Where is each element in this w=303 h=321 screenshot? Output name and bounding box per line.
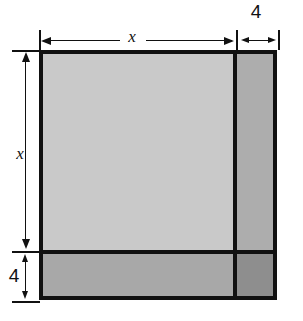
arrowhead-left-4-top (22, 254, 28, 262)
arrowhead-top-x-left (41, 37, 51, 45)
witness-tick-top-middle (236, 30, 238, 50)
dimension-label-left-4: 4 (3, 266, 25, 285)
arrowhead-top-x-right (224, 37, 234, 45)
dimension-label-top-x: x (122, 28, 142, 45)
dimension-label-left-x: x (10, 145, 30, 162)
shape-outer-border (39, 50, 277, 300)
witness-tick-left-bottom (12, 301, 40, 303)
witness-tick-top-right (278, 30, 280, 50)
internal-horizontal-divider (39, 250, 277, 254)
arrowhead-left-x-top (22, 52, 30, 62)
geometry-diagram: x 4 x 4 (0, 0, 303, 321)
arrowhead-left-x-bottom (22, 239, 30, 249)
internal-vertical-divider (233, 50, 237, 300)
arrowhead-top-4-left (241, 37, 249, 43)
arrowhead-left-4-bottom (22, 291, 28, 299)
dimension-shaft-left-4 (25, 259, 26, 294)
arrowhead-top-4-right (268, 37, 276, 43)
witness-tick-left-middle (12, 251, 40, 253)
dimension-label-top-4: 4 (245, 2, 267, 21)
